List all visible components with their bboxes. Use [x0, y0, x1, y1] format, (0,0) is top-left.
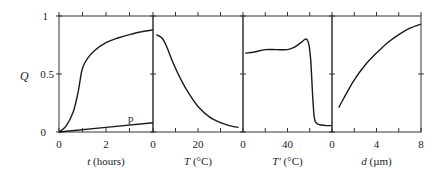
labels-layer: Q 0 0.5 1 p: [20, 10, 134, 138]
panel-frame: [59, 16, 153, 132]
panel-frame: [243, 16, 332, 132]
x-tick-label: 20: [193, 138, 205, 150]
x-tick-label: 0: [150, 138, 156, 150]
y-tick-label-0.5: 0.5: [40, 68, 54, 80]
panel-4: 048d (µm): [329, 12, 424, 168]
x-tick-label: 0: [240, 138, 246, 150]
panel-2: 020T (°C): [150, 12, 243, 168]
annotation-p: p: [128, 112, 134, 124]
panel-frame: [153, 16, 243, 132]
x-tick-label: 0: [56, 138, 62, 150]
axes-layer: 02t (hours)020T (°C)040T' (°C)048d (µm): [56, 12, 424, 168]
x-axis-label: T' (°C): [272, 155, 303, 168]
curve-panel-1-main: [59, 30, 153, 132]
x-tick-label: 8: [418, 138, 424, 150]
y-tick-label-1: 1: [43, 10, 49, 22]
x-axis-label: t (hours): [87, 155, 125, 168]
x-tick-label: 40: [282, 138, 294, 150]
curve-panel-3-main: [245, 39, 332, 126]
curve-panel-4-main: [339, 24, 421, 108]
curves-layer: [59, 24, 421, 132]
y-axis-label: Q: [20, 69, 29, 83]
x-tick-label: 0: [329, 138, 335, 150]
panel-1: 02t (hours): [56, 12, 153, 168]
x-tick-label: 4: [374, 138, 380, 150]
figure-panels-chart: 02t (hours)020T (°C)040T' (°C)048d (µm) …: [0, 0, 444, 176]
panel-frame: [332, 16, 421, 132]
x-axis-label: T (°C): [184, 155, 212, 168]
x-tick-label: 2: [103, 138, 109, 150]
y-tick-label-0: 0: [41, 126, 47, 138]
x-axis-label: d (µm): [361, 155, 392, 168]
panel-3: 040T' (°C): [240, 12, 332, 168]
curve-panel-2-main: [156, 35, 238, 128]
